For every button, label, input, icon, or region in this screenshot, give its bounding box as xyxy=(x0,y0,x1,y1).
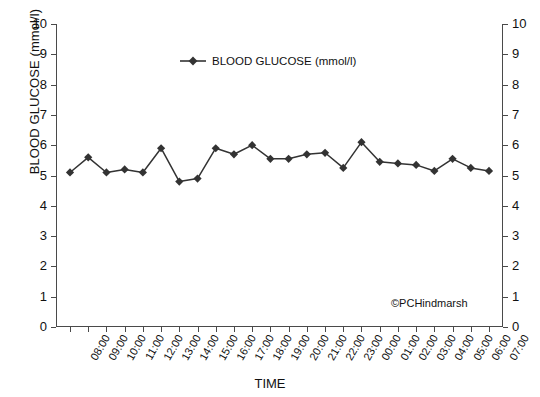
data-point-1600 xyxy=(212,144,220,152)
y-axis-tick-right-7 xyxy=(503,115,508,116)
data-point-0300 xyxy=(412,161,420,169)
blood-glucose-chart-figure: BLOOD GLUCOSE (mmol/l) 10109988776655443… xyxy=(0,0,540,397)
x-axis-tick-1500 xyxy=(198,327,199,332)
x-axis-tick-0700 xyxy=(489,327,490,332)
x-axis-tick-0600 xyxy=(471,327,472,332)
data-point-0600 xyxy=(467,164,475,172)
data-point-2000 xyxy=(285,155,293,163)
data-point-1700 xyxy=(230,150,238,158)
y-axis-label-right-9: 9 xyxy=(512,47,519,60)
x-axis-tick-1300 xyxy=(161,327,162,332)
y-axis-label-left-6: 6 xyxy=(40,138,47,151)
y-axis-label-left-1: 1 xyxy=(40,290,47,303)
x-axis-tick-2300 xyxy=(343,327,344,332)
data-series-blood-glucose xyxy=(56,24,503,327)
legend-marker-icon xyxy=(180,55,206,67)
y-axis-label-right-3: 3 xyxy=(512,229,519,242)
y-axis-label-right-1: 1 xyxy=(512,290,519,303)
y-axis-label-left-2: 2 xyxy=(40,259,47,272)
x-axis-tick-0200 xyxy=(398,327,399,332)
x-axis-tick-2100 xyxy=(307,327,308,332)
y-axis-label-right-6: 6 xyxy=(512,138,519,151)
x-axis-tick-0800 xyxy=(70,327,71,332)
y-axis-label-left-4: 4 xyxy=(40,199,47,212)
y-axis-label-left-10: 10 xyxy=(33,17,47,30)
y-axis-label-right-4: 4 xyxy=(512,199,519,212)
y-axis-tick-right-1 xyxy=(503,297,508,298)
x-axis-tick-2000 xyxy=(289,327,290,332)
x-axis-tick-0500 xyxy=(453,327,454,332)
data-point-1100 xyxy=(121,165,129,173)
y-axis-label-right-0: 0 xyxy=(512,320,519,333)
data-point-0200 xyxy=(394,159,402,167)
y-axis-label-left-9: 9 xyxy=(40,47,47,60)
y-axis-tick-right-6 xyxy=(503,145,508,146)
y-axis-tick-right-10 xyxy=(503,24,508,25)
y-axis-tick-right-9 xyxy=(503,54,508,55)
x-axis-tick-0000 xyxy=(361,327,362,332)
y-axis-label-left-8: 8 xyxy=(40,78,47,91)
data-point-0500 xyxy=(448,155,456,163)
x-axis-tick-1700 xyxy=(234,327,235,332)
x-axis-tick-1800 xyxy=(252,327,253,332)
x-axis-tick-0900 xyxy=(88,327,89,332)
x-axis-title: TIME xyxy=(0,376,540,391)
series-line xyxy=(70,142,489,181)
y-axis-label-right-8: 8 xyxy=(512,78,519,91)
y-axis-label-right-5: 5 xyxy=(512,169,519,182)
y-axis-label-left-5: 5 xyxy=(40,169,47,182)
y-axis-tick-right-0 xyxy=(503,327,508,328)
y-axis-tick-right-3 xyxy=(503,236,508,237)
x-axis-tick-1100 xyxy=(125,327,126,332)
chart-legend: BLOOD GLUCOSE (mmol/l) xyxy=(180,55,356,67)
copyright-annotation: ©PCHindmarsh xyxy=(391,297,468,309)
x-axis-tick-1200 xyxy=(143,327,144,332)
x-axis-tick-1600 xyxy=(216,327,217,332)
data-point-1400 xyxy=(175,177,183,185)
data-point-2100 xyxy=(303,150,311,158)
x-axis-tick-0400 xyxy=(434,327,435,332)
y-axis-label-right-2: 2 xyxy=(512,259,519,272)
data-point-1500 xyxy=(193,174,201,182)
y-axis-label-left-3: 3 xyxy=(40,229,47,242)
data-point-0400 xyxy=(430,167,438,175)
x-axis-tick-0300 xyxy=(416,327,417,332)
x-axis-tick-1900 xyxy=(270,327,271,332)
y-axis-tick-right-8 xyxy=(503,85,508,86)
x-axis-tick-1400 xyxy=(179,327,180,332)
y-axis-tick-left-0 xyxy=(51,327,56,328)
y-axis-tick-right-4 xyxy=(503,206,508,207)
y-axis-label-left-0: 0 xyxy=(40,320,47,333)
y-axis-label-right-10: 10 xyxy=(512,17,526,30)
x-axis-tick-1000 xyxy=(106,327,107,332)
x-axis-tick-0100 xyxy=(380,327,381,332)
plot-area: 101099887766554433221100 08:0009:0010:00… xyxy=(56,24,503,327)
data-point-0700 xyxy=(485,167,493,175)
legend-label-blood-glucose: BLOOD GLUCOSE (mmol/l) xyxy=(212,55,356,67)
y-axis-label-left-7: 7 xyxy=(40,108,47,121)
x-axis-tick-2200 xyxy=(325,327,326,332)
y-axis-label-right-7: 7 xyxy=(512,108,519,121)
y-axis-tick-right-5 xyxy=(503,176,508,177)
y-axis-tick-right-2 xyxy=(503,266,508,267)
